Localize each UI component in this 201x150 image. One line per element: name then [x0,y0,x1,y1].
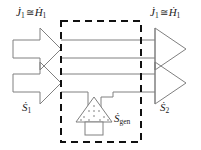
label-inlet-energy-sub2: 1 [43,11,47,20]
figure-canvas: J̇1≅Ḣ1 J̇1≅Ḣ1 Ṡ1 Ṡ2 Ṡgen [0,0,201,150]
label-outlet-energy-sym2: Ḣ [169,6,177,18]
label-outlet-entropy: Ṡ2 [160,102,169,113]
outlet-arrow-energy [155,28,186,70]
outlet-arrow-entropy-head [155,62,186,104]
entropy-generation-pedestal [85,122,103,135]
label-outlet-entropy-sym: Ṡ [160,101,166,113]
label-entropy-generation: Ṡgen [114,113,130,124]
label-inlet-energy-sub1: 1 [21,11,25,20]
entropy-generation-source [76,97,112,135]
label-inlet-entropy: Ṡ1 [22,102,31,113]
label-inlet-entropy-sym: Ṡ [22,101,28,113]
inlet-arrow-energy-outline [13,28,61,70]
inlet-arrow-energy [13,28,61,70]
label-entropy-generation-sub: gen [120,117,131,126]
label-outlet-energy-operator: ≅ [159,7,169,18]
diagram-svg [0,0,201,150]
label-inlet-energy-operator: ≅ [25,7,35,18]
label-inlet-energy-sym2: Ḣ [35,6,43,18]
inlet-arrow-entropy [13,62,61,104]
outlet-arrow-entropy [155,62,186,104]
label-inlet-entropy-sub: 1 [28,106,32,115]
label-outlet-energy-sub2: 1 [177,11,181,20]
label-entropy-generation-sym: Ṡ [114,112,120,124]
label-outlet-energy-sub1: 1 [155,11,159,20]
label-outlet-energy: J̇1≅Ḣ1 [150,7,180,18]
entropy-generation-triangle [76,97,112,122]
inlet-arrow-entropy-outline [13,62,61,104]
outlet-arrow-energy-head [155,28,186,70]
label-outlet-entropy-sub: 2 [166,106,170,115]
label-inlet-energy: J̇1≅Ḣ1 [16,7,46,18]
